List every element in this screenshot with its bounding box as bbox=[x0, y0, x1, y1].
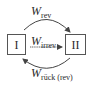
label-w-rev: Wrev bbox=[31, 5, 51, 20]
state-box-ii: II bbox=[65, 34, 86, 55]
symbol-w: W bbox=[31, 66, 41, 80]
subscript-ruck-rev: rück (rev) bbox=[41, 73, 73, 82]
state-label-ii: II bbox=[72, 39, 80, 51]
thermodynamic-process-diagram: I II Wrev Wirrev Wrück (rev) bbox=[0, 0, 94, 86]
subscript-rev: rev bbox=[41, 11, 51, 20]
symbol-w: W bbox=[31, 4, 41, 18]
symbol-w: W bbox=[31, 34, 41, 48]
subscript-irrev: irrev bbox=[41, 41, 56, 50]
state-label-i: I bbox=[15, 39, 19, 51]
state-box-i: I bbox=[7, 34, 26, 55]
label-w-ruck-rev: Wrück (rev) bbox=[31, 67, 73, 82]
upper-arc-arrow bbox=[24, 19, 70, 32]
label-w-irrev: Wirrev bbox=[31, 35, 56, 50]
